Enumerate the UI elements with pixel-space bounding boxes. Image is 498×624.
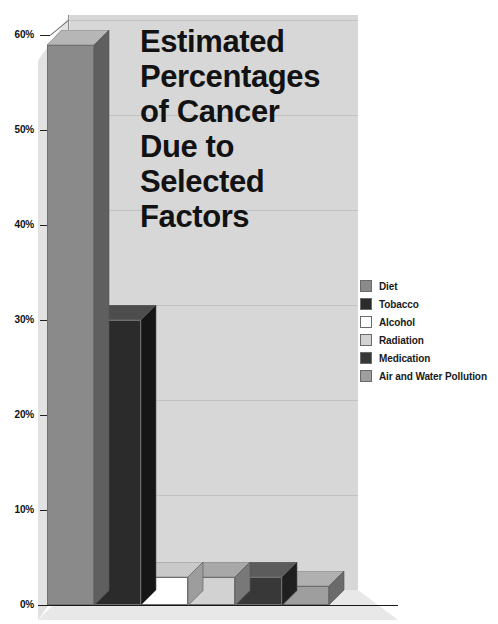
bar-side-face xyxy=(94,45,109,606)
bar-diet[interactable] xyxy=(47,45,94,606)
bar-front-face xyxy=(47,45,94,606)
bar-top-face xyxy=(47,30,94,45)
bar-side-face xyxy=(141,320,156,605)
bar-side-face xyxy=(282,577,297,606)
legend-swatch xyxy=(360,334,372,346)
bar-side-face-shape xyxy=(282,562,298,607)
legend-swatch xyxy=(360,280,372,292)
chart-title-line: Estimated xyxy=(140,24,355,59)
legend-swatch xyxy=(360,298,372,310)
chart-legend: DietTobaccoAlcoholRadiationMedicationAir… xyxy=(360,277,496,385)
legend-item[interactable]: Alcohol xyxy=(360,313,496,331)
legend-item[interactable]: Air and Water Pollution xyxy=(360,367,496,385)
y-axis-tick-label: 10% xyxy=(0,504,34,515)
y-axis-tick-label: 20% xyxy=(0,409,34,420)
y-axis-tick-label: 40% xyxy=(0,219,34,230)
legend-label: Medication xyxy=(379,353,430,364)
y-axis-tick-label: 50% xyxy=(0,124,34,135)
y-axis-tick-label: 60% xyxy=(0,29,34,40)
legend-label: Alcohol xyxy=(379,317,415,328)
legend-item[interactable]: Radiation xyxy=(360,331,496,349)
legend-item[interactable]: Medication xyxy=(360,349,496,367)
legend-item[interactable]: Tobacco xyxy=(360,295,496,313)
y-axis-tick-label: 30% xyxy=(0,314,34,325)
bar-side-face xyxy=(329,586,344,605)
chart-title-line: of Cancer xyxy=(140,94,355,129)
legend-swatch xyxy=(360,316,372,328)
chart-title: EstimatedPercentagesof CancerDue toSelec… xyxy=(140,24,355,234)
chart-title-line: Factors xyxy=(140,199,355,234)
legend-item[interactable]: Diet xyxy=(360,277,496,295)
chart-title-line: Percentages xyxy=(140,59,355,94)
bar-side-face-shape xyxy=(235,562,251,607)
bar-side-face-shape xyxy=(188,562,204,607)
legend-label: Air and Water Pollution xyxy=(379,371,487,382)
legend-label: Diet xyxy=(379,281,398,292)
chart-title-line: Due to xyxy=(140,129,355,164)
legend-swatch xyxy=(360,352,372,364)
gridline xyxy=(68,20,358,21)
y-axis-tick-label: 0% xyxy=(0,599,34,610)
legend-label: Tobacco xyxy=(379,299,419,310)
bar-side-face xyxy=(188,577,203,606)
bar-side-face-shape xyxy=(141,305,157,606)
chart-title-line: Selected xyxy=(140,164,355,199)
bar-side-face-shape xyxy=(94,30,110,607)
chart-container: 60%50%40%30%20%10%0% EstimatedPercentage… xyxy=(0,0,498,624)
legend-label: Radiation xyxy=(379,335,424,346)
bar-side-face-shape xyxy=(329,571,345,606)
bar-side-face xyxy=(235,577,250,606)
legend-swatch xyxy=(360,370,372,382)
